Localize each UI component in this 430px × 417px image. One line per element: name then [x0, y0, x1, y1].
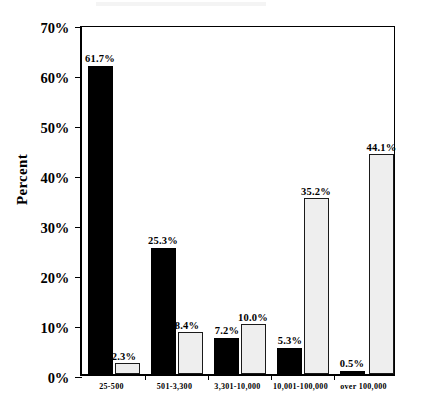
x-axis-category-label: 501-3,300 — [143, 382, 206, 391]
bar-value-label: 61.7% — [85, 53, 115, 64]
bar-dark-2: 7.2% — [214, 338, 239, 374]
y-axis-tick-label: 70% — [41, 20, 69, 37]
bar-value-label: 2.3% — [112, 351, 136, 362]
bar-chart-figure: Percent 0%10%20%30%40%50%60%70% 61.7%25.… — [0, 0, 430, 417]
x-axis-tick — [145, 374, 146, 380]
bar-value-label: 44.1% — [367, 142, 397, 153]
bar-dark-3: 5.3% — [277, 348, 302, 375]
bar-light-4: 44.1% — [369, 154, 394, 375]
y-axis-tick: 50% — [75, 127, 82, 128]
bar-value-label: 7.2% — [215, 325, 239, 336]
bar-value-label: 5.3% — [278, 335, 302, 346]
bar-value-label: 10.0% — [238, 312, 268, 323]
x-axis-category-label: 25-500 — [80, 382, 143, 391]
y-axis-tick-label: 0% — [48, 370, 69, 387]
y-axis-tick-label: 50% — [41, 120, 69, 137]
plot-area: 0%10%20%30%40%50%60%70% 61.7%25.3%7.2%5.… — [80, 26, 395, 376]
y-axis-tick: 70% — [75, 27, 82, 28]
bar-light-2: 10.0% — [241, 324, 266, 374]
scan-artifact — [96, 2, 266, 6]
y-axis-tick: 20% — [75, 277, 82, 278]
y-axis-tick-label: 20% — [41, 270, 69, 287]
bar-dark-0: 61.7% — [88, 66, 113, 375]
x-axis-tick — [271, 374, 272, 380]
bar-light-3: 35.2% — [304, 198, 329, 374]
y-axis-tick: 0% — [75, 377, 82, 378]
y-axis-tick-label: 30% — [41, 220, 69, 237]
bar-dark-1: 25.3% — [151, 248, 176, 375]
y-axis-tick: 60% — [75, 77, 82, 78]
y-axis-tick-label: 10% — [41, 320, 69, 337]
bar-value-label: 25.3% — [148, 235, 178, 246]
x-axis-category-label: 3,301-10,000 — [206, 382, 269, 391]
bar-dark-4: 0.5% — [340, 371, 365, 374]
y-axis-title: Percent — [14, 120, 31, 240]
x-axis-category-label: over 100,000 — [332, 382, 395, 391]
y-axis-tick: 40% — [75, 177, 82, 178]
x-axis-category-label: 10,001-100,000 — [269, 382, 332, 391]
y-axis-tick: 30% — [75, 227, 82, 228]
bar-value-label: 35.2% — [301, 186, 331, 197]
y-axis-tick: 10% — [75, 327, 82, 328]
y-axis-tick-label: 60% — [41, 70, 69, 87]
bar-light-1: 8.4% — [178, 332, 203, 374]
x-axis-tick — [334, 374, 335, 380]
x-axis-tick — [208, 374, 209, 380]
bar-value-label: 0.5% — [340, 358, 364, 369]
bar-light-0: 2.3% — [115, 363, 140, 375]
bar-value-label: 8.4% — [175, 320, 199, 331]
y-axis-tick-label: 40% — [41, 170, 69, 187]
